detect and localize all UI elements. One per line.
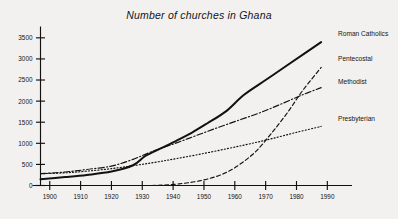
y-axis-tick-label: 3000 bbox=[18, 55, 33, 62]
y-axis-tick-label: 2000 bbox=[18, 98, 33, 105]
series-label-methodist: Methodist bbox=[338, 78, 367, 85]
series-line-roman-catholics bbox=[41, 42, 322, 179]
chart-container: Number of churches in Ghana 050010001500… bbox=[0, 0, 398, 219]
y-axis-tick-label: 0 bbox=[29, 182, 33, 189]
series-line-methodist bbox=[41, 88, 322, 174]
series-label-presbyterian: Presbyterian bbox=[338, 115, 375, 123]
x-axis-tick-label: 1990 bbox=[320, 193, 335, 200]
x-axis-tick-label: 1960 bbox=[228, 193, 243, 200]
y-axis-tick-label: 1500 bbox=[18, 119, 33, 126]
y-axis-tick-label: 500 bbox=[22, 161, 33, 168]
x-axis-tick-label: 1950 bbox=[197, 193, 212, 200]
series-label-roman-catholics: Roman Catholics bbox=[338, 30, 389, 37]
y-axis-tick-label: 2500 bbox=[18, 76, 33, 83]
x-axis-tick-label: 1900 bbox=[43, 193, 58, 200]
series-line-presbyterian bbox=[41, 126, 322, 173]
x-axis-tick-label: 1930 bbox=[135, 193, 150, 200]
x-axis-tick-label: 1920 bbox=[104, 193, 119, 200]
x-axis-tick-label: 1910 bbox=[73, 193, 88, 200]
x-axis-tick-label: 1980 bbox=[289, 193, 304, 200]
line-chart-plot: 0500100015002000250030003500190019101920… bbox=[0, 0, 398, 219]
x-axis-tick-label: 1940 bbox=[166, 193, 181, 200]
y-axis-tick-label: 1000 bbox=[18, 140, 33, 147]
series-label-pentecostal: Pentecostal bbox=[338, 55, 373, 62]
series-line-pentecostal bbox=[152, 67, 322, 185]
y-axis-tick-label: 3500 bbox=[18, 34, 33, 41]
x-axis-tick-label: 1970 bbox=[259, 193, 274, 200]
